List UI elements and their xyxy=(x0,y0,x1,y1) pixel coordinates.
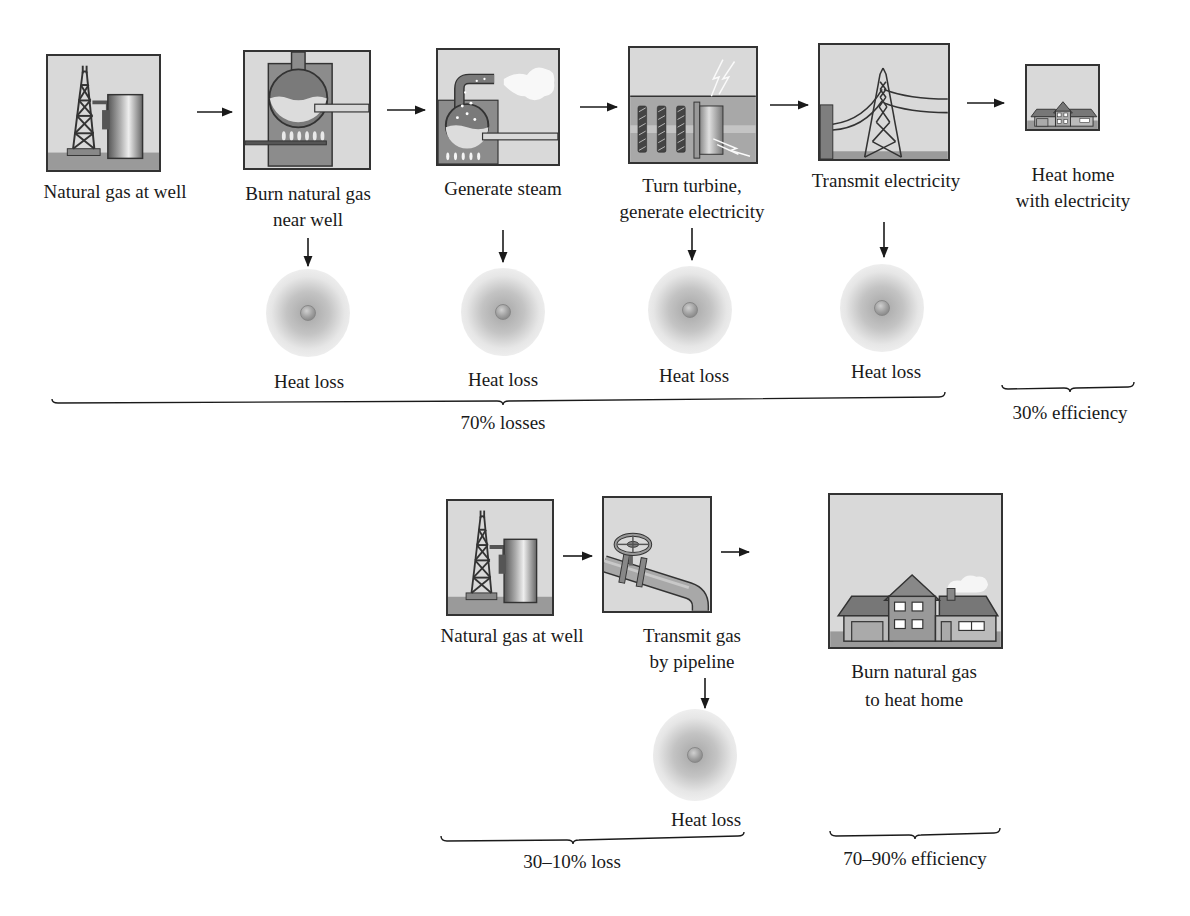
label-line: by pipeline xyxy=(643,650,741,674)
panel-burn-gas-heat-home xyxy=(828,493,1003,649)
label-burn-gas-heat-home: Burn natural gas to heat home xyxy=(851,660,977,712)
label-line: near well xyxy=(245,208,371,232)
heat-loss-glow-icon xyxy=(653,709,737,801)
heat-source-dot-icon xyxy=(300,305,316,321)
label-line: Transmit electricity xyxy=(812,170,961,191)
label-line: Burn natural gas xyxy=(245,182,371,206)
panel-generate-steam xyxy=(436,48,560,166)
label-natural-gas-well-bottom: Natural gas at well xyxy=(441,624,584,648)
label-line: Turn turbine, xyxy=(619,174,764,198)
panel-natural-gas-well-bottom xyxy=(446,499,554,616)
panel-transmit-gas-pipeline xyxy=(602,496,712,613)
panel-burn-natural-gas xyxy=(243,50,371,170)
label-line: Natural gas at well xyxy=(44,181,187,202)
connectors-overlay xyxy=(0,0,1190,916)
brace-30-10-loss xyxy=(441,832,744,844)
bracket-label-30-10-loss: 30–10% loss xyxy=(523,850,621,874)
panel-transmit-electricity xyxy=(818,43,950,161)
bracket-label-70-90-efficiency: 70–90% efficiency xyxy=(843,847,987,871)
oil-derrick-and-tank-icon xyxy=(448,501,552,614)
label-line: Generate steam xyxy=(444,178,562,199)
panel-turn-turbine xyxy=(628,46,758,164)
boiler-burner-icon xyxy=(245,52,369,168)
label-transmit-electricity: Transmit electricity xyxy=(812,169,961,193)
pipeline-valve-icon xyxy=(604,498,710,611)
house-icon xyxy=(1027,66,1098,129)
heat-source-dot-icon xyxy=(874,300,890,316)
heat-loss-label: Heat loss xyxy=(659,364,729,388)
panel-heat-home-electric xyxy=(1025,64,1100,131)
label-transmit-gas-pipeline: Transmit gas by pipeline xyxy=(643,624,741,674)
label-generate-steam: Generate steam xyxy=(444,177,562,201)
brace-70-90-efficiency xyxy=(830,828,1000,839)
label-line: Burn natural gas xyxy=(851,660,977,684)
oil-derrick-and-tank-icon xyxy=(48,56,159,170)
label-turn-turbine: Turn turbine, generate electricity xyxy=(619,174,764,224)
bracket-label-30-efficiency: 30% efficiency xyxy=(1012,401,1127,425)
heat-source-dot-icon xyxy=(682,302,698,318)
turbine-generator-icon xyxy=(630,48,756,162)
heat-loss-glow-icon xyxy=(648,266,732,354)
heat-loss-glow-icon xyxy=(266,269,350,357)
steam-generator-icon xyxy=(438,50,558,164)
label-line: Natural gas at well xyxy=(441,625,584,646)
heat-loss-glow-icon xyxy=(461,268,545,356)
label-line: Transmit gas xyxy=(643,624,741,648)
panel-natural-gas-well-top xyxy=(46,54,161,172)
heat-source-dot-icon xyxy=(687,747,703,763)
heat-loss-glow-icon xyxy=(840,264,924,352)
label-heat-home-electric: Heat home with electricity xyxy=(1016,163,1130,213)
heat-loss-label: Heat loss xyxy=(671,808,741,832)
bracket-label-70-losses: 70% losses xyxy=(461,411,546,435)
brace-30-efficiency xyxy=(1002,382,1134,392)
label-line: to heat home xyxy=(851,688,977,712)
label-natural-gas-well-top: Natural gas at well xyxy=(44,180,187,204)
label-burn-natural-gas: Burn natural gas near well xyxy=(245,182,371,232)
brace-70-losses xyxy=(52,392,945,405)
label-line: with electricity xyxy=(1016,189,1130,213)
label-line: generate electricity xyxy=(619,200,764,224)
heat-loss-label: Heat loss xyxy=(851,360,921,384)
label-line: Heat home xyxy=(1016,163,1130,187)
heat-source-dot-icon xyxy=(495,304,511,320)
heat-loss-label: Heat loss xyxy=(274,370,344,394)
heat-loss-label: Heat loss xyxy=(468,368,538,392)
house-icon xyxy=(830,495,1001,647)
power-transmission-tower-icon xyxy=(820,45,948,159)
